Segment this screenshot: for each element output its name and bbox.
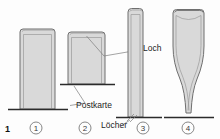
tube-shape-4 bbox=[173, 10, 204, 114]
postcard-tube-diagram: Loch Postkarte Löcher 1 2 3 4 1 bbox=[0, 0, 220, 139]
annotation-loch: Loch bbox=[143, 43, 162, 53]
item-number-1-label: 1 bbox=[34, 124, 39, 133]
item-number-3: 3 bbox=[137, 122, 149, 134]
item-number-1: 1 bbox=[30, 122, 42, 134]
tube-shape-3 bbox=[128, 9, 143, 118]
item-number-4-label: 4 bbox=[186, 124, 191, 133]
figure-container: Loch Postkarte Löcher 1 2 3 4 1 bbox=[0, 0, 220, 139]
item-number-4: 4 bbox=[182, 122, 194, 134]
figure-number: 1 bbox=[5, 124, 10, 134]
tube-shape-2 bbox=[68, 32, 105, 84]
item-number-3-label: 3 bbox=[141, 124, 146, 133]
annotation-loecher: Löcher bbox=[101, 120, 127, 130]
annotation-postkarte: Postkarte bbox=[76, 100, 112, 110]
item-number-2-label: 2 bbox=[83, 124, 88, 133]
item-number-2: 2 bbox=[79, 122, 91, 134]
tube-shape-1 bbox=[20, 29, 55, 109]
